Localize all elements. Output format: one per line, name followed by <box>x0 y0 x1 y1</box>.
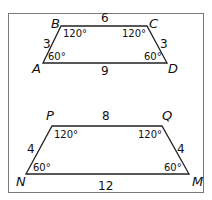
vertex-p-label: P <box>46 108 54 123</box>
side-qm-label: 4 <box>177 142 185 156</box>
side-ab-label: 3 <box>43 37 51 51</box>
trapezoid-npqm: P Q N M 8 12 4 4 120° 120° 60° 60° <box>16 108 203 193</box>
trapezoid-diagram: B C A D 6 9 3 3 120° 120° 60° 60° P Q N … <box>0 0 212 200</box>
angle-b-label: 120° <box>63 28 87 39</box>
vertex-n-label: N <box>16 174 26 189</box>
side-ad-label: 9 <box>101 64 109 78</box>
angle-a-label: 60° <box>48 51 66 62</box>
angle-q-label: 120° <box>138 129 162 140</box>
vertex-a-label: A <box>31 61 41 76</box>
vertex-c-label: C <box>149 16 159 31</box>
side-pq-label: 8 <box>102 109 110 123</box>
side-nm-label: 12 <box>98 179 113 193</box>
vertex-d-label: D <box>168 61 178 76</box>
side-bc-label: 6 <box>101 11 109 25</box>
vertex-m-label: M <box>192 174 203 189</box>
trapezoid-abcd: B C A D 6 9 3 3 120° 120° 60° 60° <box>31 11 178 78</box>
vertex-b-label: B <box>51 16 60 31</box>
side-cd-label: 3 <box>160 37 168 51</box>
angle-p-label: 120° <box>54 129 78 140</box>
angle-m-label: 60° <box>164 162 182 173</box>
angle-c-label: 120° <box>122 28 146 39</box>
side-np-label: 4 <box>27 142 35 156</box>
vertex-q-label: Q <box>162 108 172 123</box>
angle-n-label: 60° <box>33 162 51 173</box>
angle-d-label: 60° <box>144 51 162 62</box>
